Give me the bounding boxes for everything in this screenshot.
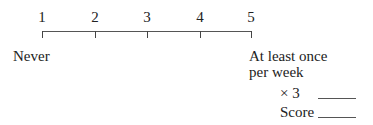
- scale-point-2[interactable]: 2: [91, 10, 99, 25]
- score-label: Score: [280, 105, 314, 120]
- scale-tick-2: [95, 31, 96, 38]
- scale-point-3[interactable]: 3: [143, 10, 151, 25]
- scale-point-1[interactable]: 1: [38, 10, 46, 25]
- score-blank-field[interactable]: [318, 117, 356, 118]
- low-anchor-label: Never: [13, 49, 50, 64]
- scale-point-4[interactable]: 4: [196, 10, 204, 25]
- multiplier-blank-field[interactable]: [318, 98, 356, 99]
- scale-tick-1: [42, 31, 43, 38]
- scale-tick-3: [147, 31, 148, 38]
- high-anchor-label-line1: At least once: [249, 49, 327, 64]
- scale-point-5[interactable]: 5: [247, 10, 255, 25]
- scale-tick-5: [251, 31, 252, 38]
- multiplier-label: × 3: [280, 86, 300, 101]
- scale-tick-4: [200, 31, 201, 38]
- high-anchor-label-line2: per week: [249, 65, 304, 80]
